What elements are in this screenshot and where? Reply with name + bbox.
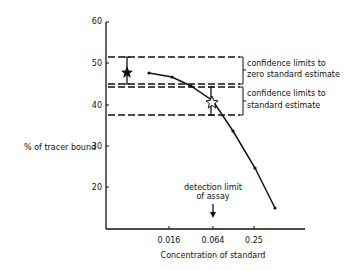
- y-tick-50: 50: [92, 59, 102, 68]
- down-arrow-icon: [210, 204, 216, 218]
- annotation-zero-2: zero standard estimate: [247, 70, 340, 79]
- y-tick-60: 60: [92, 17, 102, 26]
- y-ticks: [106, 22, 254, 229]
- zero-standard-marker: [121, 57, 133, 84]
- brackets: [240, 57, 246, 115]
- y-tick-40: 40: [92, 101, 102, 110]
- annotation-zero-1: confidence limits to: [247, 59, 326, 68]
- x-tick-025: 0.25: [245, 236, 263, 245]
- annotation-std-2: standard estimate: [247, 101, 320, 110]
- x-tick-0064: 0.064: [202, 236, 225, 245]
- x-tick-0016: 0.016: [158, 236, 181, 245]
- detection-limit-label-2: of assay: [196, 192, 229, 201]
- annotation-std-1: confidence limits to: [247, 89, 326, 98]
- standard-marker: [206, 87, 218, 115]
- y-tick-20: 20: [92, 183, 102, 192]
- detection-limit-label-1: detection limit: [184, 183, 242, 192]
- y-axis-label: % of tracer bound: [24, 143, 96, 152]
- confidence-bands: [108, 57, 240, 115]
- chart: 60 50 40 30 20 0.016 0.064 0.25 Concentr…: [0, 0, 349, 271]
- x-axis-label: Concentration of standard: [161, 251, 266, 260]
